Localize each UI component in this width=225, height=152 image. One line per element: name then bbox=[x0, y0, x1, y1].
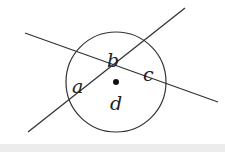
label-b: b bbox=[107, 49, 119, 71]
angle-diagram: a b c d bbox=[0, 0, 225, 152]
label-a: a bbox=[72, 75, 83, 97]
intersection-point bbox=[113, 79, 119, 85]
label-d: d bbox=[110, 92, 122, 114]
bottom-strip bbox=[0, 144, 225, 152]
label-c: c bbox=[143, 63, 154, 85]
diagram-canvas: a b c d bbox=[0, 0, 225, 152]
